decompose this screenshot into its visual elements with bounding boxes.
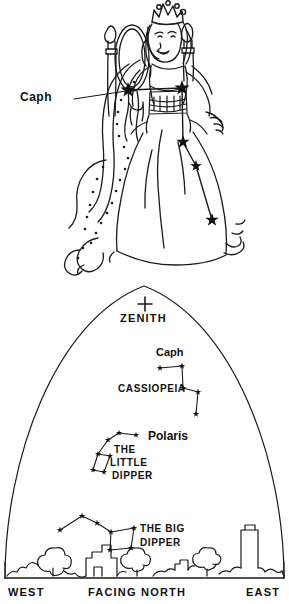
caph-leader-line xyxy=(74,91,126,99)
little-dipper-star-5 xyxy=(101,469,107,475)
big-dipper-label-line1: THE BIG xyxy=(140,523,185,534)
crown xyxy=(152,1,186,25)
zenith-label: ZENITH xyxy=(120,312,167,324)
sky-dome-outline xyxy=(5,286,284,578)
little-dipper-star-2 xyxy=(105,437,111,443)
horizon-label-east: EAST xyxy=(246,586,280,598)
queen-gown xyxy=(117,114,246,265)
sky-dome-chart-panel: ZENITH Caph CASSIOPEIA Polaris THE LITTL… xyxy=(0,280,289,604)
big-dipper-star-group xyxy=(57,513,137,553)
caph-callout: Caph xyxy=(20,90,126,104)
horizon-label-west: WEST xyxy=(8,586,45,598)
caph-callout-label: Caph xyxy=(20,90,52,104)
zenith-cross-icon xyxy=(138,297,152,311)
figure-star-4 xyxy=(205,213,218,226)
little-dipper-label-line1: THE xyxy=(114,444,136,455)
cassiopeia-caph-label: Caph xyxy=(156,346,184,358)
horizon-label-center: FACING NORTH xyxy=(88,586,186,598)
big-dipper-star-0 xyxy=(57,527,63,533)
cassiopeia-star-0 xyxy=(157,365,163,371)
cassiopeia-queen-drawing: Caph xyxy=(0,0,289,280)
little-dipper-label-line3: DIPPER xyxy=(112,470,153,481)
big-dipper-label-line2: DIPPER xyxy=(140,537,181,548)
big-dipper-star-6 xyxy=(107,547,113,553)
polaris-label: Polaris xyxy=(148,429,188,443)
cassiopeia-label: CASSIOPEIA xyxy=(118,383,186,394)
constellation-figure-panel: Caph xyxy=(0,0,289,280)
cassiopeia-star-4 xyxy=(193,411,199,417)
ermine-spots xyxy=(77,81,136,260)
sky-dome-chart: ZENITH Caph CASSIOPEIA Polaris THE LITTL… xyxy=(0,280,289,604)
little-dipper-star-0 xyxy=(133,432,139,438)
little-dipper-star-4 xyxy=(90,467,96,473)
queen-head xyxy=(147,24,181,62)
figure-star-3 xyxy=(190,160,201,171)
asterism-lines-figure xyxy=(128,88,212,220)
little-dipper-label-line2: LITTLE xyxy=(110,457,147,468)
waist-sash xyxy=(149,91,187,114)
